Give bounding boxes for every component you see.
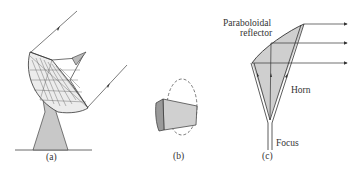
incoming-ray-1	[31, 11, 77, 52]
panel-a-dish-antenna	[15, 11, 127, 150]
caption-c: (c)	[262, 151, 273, 161]
label-reflector: reflector	[240, 28, 272, 38]
ray-arrow-2	[107, 83, 110, 88]
aperture-dark-face	[156, 99, 164, 131]
caption-b: (b)	[173, 151, 184, 161]
label-focus: Focus	[276, 138, 299, 148]
aperture-light-face	[163, 99, 197, 130]
label-horn: Horn	[291, 85, 311, 95]
label-paraboloidal: Paraboloidal	[223, 18, 271, 28]
panel-b-aperture	[156, 79, 197, 135]
caption-a: (a)	[46, 152, 57, 162]
